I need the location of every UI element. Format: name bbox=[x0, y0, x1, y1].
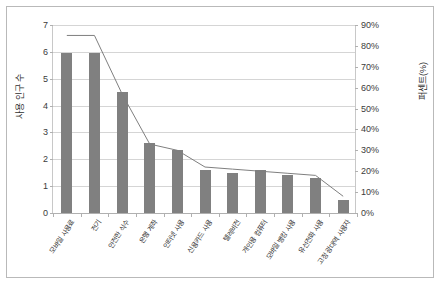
y-axis-left-tick-label: 2 bbox=[43, 155, 48, 164]
y-axis-right-tick-label: 90% bbox=[361, 21, 379, 30]
y-axis-right-tick-label: 40% bbox=[361, 125, 379, 134]
y-axis-left-tick-label: 7 bbox=[43, 21, 48, 30]
y-axis-left-title: 사용 인구 수 bbox=[16, 74, 25, 119]
x-axis-label: 개인용 컴퓨터 bbox=[241, 219, 269, 254]
y-axis-right-tick-label: 10% bbox=[361, 188, 379, 197]
y-axis-right-tick-label: 70% bbox=[361, 62, 379, 71]
y-axis-left-tick-label: 6 bbox=[43, 47, 48, 56]
y-axis-right-title: 퍼센트(%) bbox=[419, 62, 428, 100]
y-axis-left-tick-label: 4 bbox=[43, 101, 48, 110]
x-axis-label: 텔레비전 bbox=[222, 219, 241, 243]
x-axis-label: 신용카드 사용 bbox=[186, 219, 214, 254]
x-axis-label: 인터넷 사용 bbox=[162, 219, 186, 249]
y-axis-left-tick-label: 5 bbox=[43, 74, 48, 83]
x-axis-label: 전기 bbox=[91, 219, 104, 233]
x-axis-tick-mark bbox=[357, 213, 358, 217]
x-axis-label: 은행 계좌 bbox=[138, 219, 159, 244]
y-axis-right-tick-label: 0% bbox=[361, 209, 374, 218]
y-axis-right-tick-label: 30% bbox=[361, 146, 379, 155]
x-axis-label: 모바일 사용료 bbox=[48, 219, 76, 254]
chart-container: 사용 인구 수 퍼센트(%) 01234567 0%10%20%30%40%50… bbox=[0, 0, 441, 285]
y-axis-left-tick-label: 1 bbox=[43, 182, 48, 191]
x-axis-label: 안전한 식수 bbox=[107, 219, 131, 249]
plot-area: 01234567 0%10%20%30%40%50%60%70%80%90% bbox=[52, 25, 356, 213]
x-axis-label: 모바일 뱅킹 사용 bbox=[265, 219, 297, 261]
x-axis-labels: 모바일 사용료전기안전한 식수은행 계좌인터넷 사용신용카드 사용텔레비전개인용… bbox=[52, 213, 356, 283]
x-axis-label: 유선전화 사용 bbox=[297, 219, 325, 254]
x-axis-ticks bbox=[53, 25, 355, 213]
y-axis-right-tick-label: 50% bbox=[361, 104, 379, 113]
y-axis-left-tick-label: 3 bbox=[43, 128, 48, 137]
y-axis-right-tick-label: 20% bbox=[361, 167, 379, 176]
y-axis-right-tick-label: 80% bbox=[361, 41, 379, 50]
y-axis-right-tick-label: 60% bbox=[361, 83, 379, 92]
y-axis-left-tick-label: 0 bbox=[43, 209, 48, 218]
